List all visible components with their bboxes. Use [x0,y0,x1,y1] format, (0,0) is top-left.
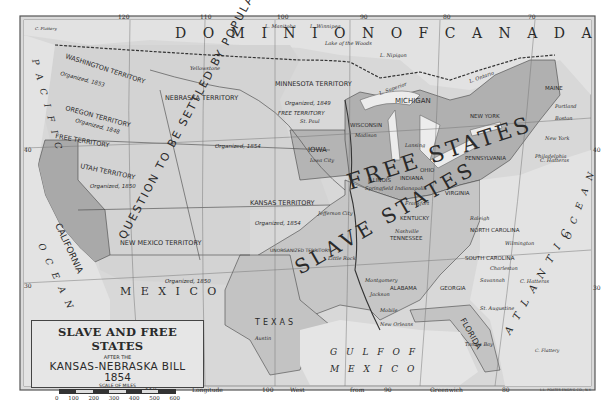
publisher-credit: L.L. POATES ENGR'G CO., N.Y. [540,388,592,392]
svg-text:80: 80 [502,386,510,393]
svg-text:OHIO: OHIO [420,167,435,173]
scale-bar [59,389,176,394]
svg-text:WISCONSIN: WISCONSIN [350,122,382,128]
svg-text:70: 70 [528,13,536,20]
svg-text:Organized, 1850: Organized, 1850 [90,183,136,190]
svg-text:Mobile: Mobile [379,307,398,313]
svg-text:West: West [290,386,305,393]
svg-text:L. Winnipeg: L. Winnipeg [309,23,341,30]
svg-text:NORTH CAROLINA: NORTH CAROLINA [470,227,520,233]
svg-text:Organized, 1854: Organized, 1854 [215,143,261,150]
svg-text:New Orleans: New Orleans [379,321,413,327]
svg-text:L. Manitoba: L. Manitoba [264,23,296,29]
svg-text:80: 80 [443,13,451,20]
svg-text:FREE TERRITORY: FREE TERRITORY [278,110,325,116]
minnesota-territory-label: MINNESOTA TERRITORY [275,80,352,88]
svg-text:INDIANA: INDIANA [400,175,423,181]
svg-text:Jackson: Jackson [369,291,390,298]
unorganized-territory-label: UNORGANIZED TERRITORY [270,248,331,253]
svg-text:Wilmington: Wilmington [505,240,534,247]
svg-text:Tampa Bay: Tampa Bay [465,341,493,348]
svg-text:MAINE: MAINE [545,85,563,91]
svg-text:St. Paul: St. Paul [300,118,320,124]
svg-text:TEXAS: TEXAS [254,318,296,327]
svg-text:GEORGIA: GEORGIA [440,285,466,291]
svg-text:MICHIGAN: MICHIGAN [395,97,431,105]
gulf-label: G U L F O F [330,347,418,357]
map-title: SLAVE AND FREE STATES [32,325,203,353]
svg-text:TENNESSEE: TENNESSEE [389,235,423,241]
kansas-territory-label: KANSAS TERRITORY [250,199,315,207]
svg-text:C. Flattery: C. Flattery [35,26,57,31]
svg-text:40: 40 [24,146,32,153]
scale-label: SCALE OF MILES [32,383,203,388]
svg-text:Boston: Boston [554,115,573,121]
svg-text:C. Hatteras: C. Hatteras [520,278,550,284]
svg-text:Jefferson City: Jefferson City [317,210,353,217]
svg-text:100: 100 [262,386,274,393]
svg-text:Little Rock: Little Rock [327,255,356,261]
map-title-box: SLAVE AND FREE STATES AFTER THE KANSAS-N… [31,320,204,388]
svg-text:NEW YORK: NEW YORK [470,113,500,119]
svg-text:90: 90 [384,386,392,393]
svg-text:ALABAMA: ALABAMA [390,285,417,291]
svg-text:Austin: Austin [254,335,271,341]
svg-text:Yellowstone: Yellowstone [190,65,220,71]
svg-text:100: 100 [277,13,289,20]
svg-text:St. Augustine: St. Augustine [480,305,514,312]
svg-text:Portland: Portland [554,103,577,109]
scale-ticks: 0 100 200 300 400 500 600 [55,395,180,401]
gulf-mexico-label: M E X I C O [329,364,417,374]
svg-text:Indianapolis: Indianapolis [394,185,427,192]
svg-text:120: 120 [118,13,130,20]
svg-text:Organized, 1849: Organized, 1849 [285,100,331,107]
svg-text:30: 30 [24,282,32,289]
svg-text:40: 40 [593,146,601,153]
svg-text:Iowa City: Iowa City [309,157,334,164]
svg-text:Nashville: Nashville [394,228,419,234]
svg-text:Montgomery: Montgomery [364,277,398,284]
svg-text:30: 30 [593,284,601,291]
svg-text:Lake of the Woods: Lake of the Woods [324,40,372,47]
svg-text:Organized, 1850: Organized, 1850 [165,278,211,285]
svg-text:Savannah: Savannah [480,277,505,283]
svg-text:C. Flattery: C. Flattery [535,348,560,353]
svg-text:PENNSYLVANIA: PENNSYLVANIA [465,155,506,161]
svg-text:New York: New York [544,135,570,141]
svg-text:Greenwich: Greenwich [430,386,463,393]
svg-text:VIRGINIA: VIRGINIA [445,190,470,196]
svg-text:from: from [350,386,365,393]
mexico-label: M E X I C O [120,285,219,298]
svg-text:90: 90 [360,13,368,20]
svg-text:L. Nipigon: L. Nipigon [379,52,407,59]
svg-text:Frankfort: Frankfort [404,200,430,207]
svg-text:ILLINOIS: ILLINOIS [368,177,391,183]
svg-text:Charleston: Charleston [490,265,518,271]
new-mexico-territory-label: NEW MEXICO TERRITORY [120,239,201,247]
svg-text:Organized, 1854: Organized, 1854 [255,220,301,227]
svg-text:Raleigh: Raleigh [469,215,489,222]
svg-text:Lansing: Lansing [404,142,425,149]
svg-text:C. Hatteras: C. Hatteras [540,157,570,163]
svg-text:SOUTH CAROLINA: SOUTH CAROLINA [465,255,515,261]
svg-text:110: 110 [200,13,212,20]
nebraska-territory-label: NEBRASKA TERRITORY [165,94,238,102]
svg-text:IOWA: IOWA [308,146,327,154]
map-year: 1854 [32,372,203,383]
svg-text:KENTUCKY: KENTUCKY [400,215,430,221]
svg-text:Springfield: Springfield [365,185,393,192]
svg-text:Madison: Madison [354,132,377,138]
iowa-state [290,130,350,180]
